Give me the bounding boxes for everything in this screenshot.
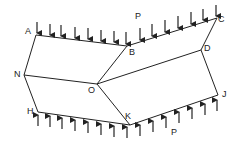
label-j: J	[222, 90, 227, 99]
label-o: O	[88, 86, 95, 95]
label-c: C	[218, 15, 225, 24]
label-d: D	[204, 44, 211, 53]
structure-diagram	[0, 0, 239, 147]
label-b: B	[129, 48, 135, 57]
label-k: K	[125, 112, 131, 121]
label-p-top: P	[135, 12, 141, 21]
label-h: H	[27, 107, 34, 116]
label-a: A	[25, 27, 31, 36]
label-n: N	[14, 70, 21, 79]
frame-edges	[24, 18, 218, 125]
label-p-bottom: P	[171, 128, 177, 137]
